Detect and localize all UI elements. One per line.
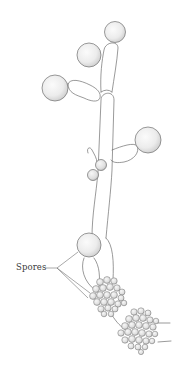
spore-right (135, 127, 161, 153)
spore-cluster-upper (90, 277, 127, 317)
hypha-branch-right (111, 144, 138, 162)
spore-lower (77, 233, 101, 257)
spore-left (42, 75, 68, 101)
spore-top (105, 22, 126, 43)
hypha-bud (87, 148, 97, 163)
spore-small-1 (96, 160, 107, 171)
hypha-branch-left (68, 80, 100, 101)
spores-label: Spores (16, 262, 46, 272)
hypha-stalk-upper (101, 43, 118, 92)
spore-cluster-lower (118, 308, 159, 355)
spore-upper-left (77, 43, 101, 67)
hypha-lower-loop (82, 258, 99, 290)
spore-small-2 (88, 170, 99, 181)
hypha-illustration: Spores (0, 0, 185, 374)
hypha-drawing (0, 0, 185, 374)
hypha-lower-right (106, 238, 113, 280)
